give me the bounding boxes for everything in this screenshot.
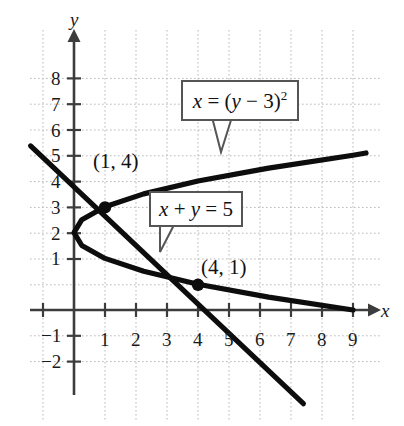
y-tick-3: 3 xyxy=(51,198,61,217)
y-tick-6: 6 xyxy=(51,121,61,140)
x-tick-2: 2 xyxy=(131,330,141,349)
x-tick-1: 1 xyxy=(100,330,110,349)
x-tick-3: 3 xyxy=(162,330,172,349)
parabola-eq-minus: − xyxy=(241,89,263,113)
parabola-eq-equals: = xyxy=(202,89,224,113)
y-tick-minus-1: −1 xyxy=(41,326,61,345)
y-tick-5: 5 xyxy=(51,146,61,165)
parabola-eq-x: x xyxy=(193,89,202,113)
y-axis-label: y xyxy=(70,10,78,29)
x-tick-4: 4 xyxy=(193,330,203,349)
line-curve xyxy=(31,146,304,404)
y-tick-minus-2: −2 xyxy=(41,352,61,371)
parabola-eq-y: y xyxy=(231,89,240,113)
x-tick-9: 9 xyxy=(348,330,358,349)
y-tick-8: 8 xyxy=(51,69,61,88)
point-label-1-4: (1, 4) xyxy=(93,151,139,172)
line-eq-y: y xyxy=(191,197,200,221)
callout-parabola-equation: x = (y − 3)2 xyxy=(181,80,299,121)
parabola-eq-three: 3 xyxy=(263,89,274,113)
line-eq-x: x xyxy=(159,197,168,221)
callout-line-equation: x + y = 5 xyxy=(149,191,243,227)
line-eq-five: 5 xyxy=(222,197,233,221)
x-tick-5: 5 xyxy=(224,330,234,349)
parabola-equation-text: x = (y − 3)2 xyxy=(187,89,293,112)
graph-figure: 1 2 3 4 5 6 7 8 9 8 7 6 5 4 3 2 1 −1 −2 … xyxy=(0,0,404,426)
line-eq-plus: + xyxy=(168,197,190,221)
line-callout-tail xyxy=(160,223,175,252)
line-equation-text: x + y = 5 xyxy=(153,199,239,220)
y-tick-4: 4 xyxy=(51,172,61,191)
x-tick-7: 7 xyxy=(286,330,296,349)
x-tick-6: 6 xyxy=(255,330,265,349)
y-tick-1: 1 xyxy=(51,249,61,268)
y-tick-2: 2 xyxy=(51,224,61,243)
x-axis-label: x xyxy=(381,301,389,320)
parabola-eq-close-paren: ) xyxy=(274,89,281,113)
parabola-eq-exponent: 2 xyxy=(281,88,288,103)
x-axis-arrow xyxy=(368,304,381,317)
x-tick-8: 8 xyxy=(317,330,327,349)
y-axis-arrow xyxy=(68,29,81,42)
line-eq-equals: = xyxy=(200,197,222,221)
point-marker-1-4 xyxy=(99,201,111,213)
point-label-4-1: (4, 1) xyxy=(201,257,247,278)
y-tick-7: 7 xyxy=(51,95,61,114)
point-marker-4-1 xyxy=(192,279,204,291)
